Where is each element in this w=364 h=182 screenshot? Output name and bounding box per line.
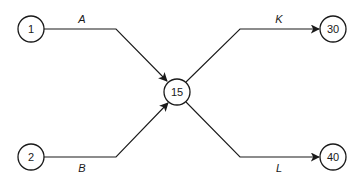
edge-label-l: L bbox=[276, 162, 282, 174]
node-15: 15 bbox=[164, 79, 190, 105]
node-1-label: 1 bbox=[28, 23, 34, 35]
network-diagram: A B K L 1 2 15 30 40 bbox=[0, 0, 364, 182]
node-1: 1 bbox=[18, 16, 44, 42]
node-30-label: 30 bbox=[327, 23, 339, 35]
node-40-label: 40 bbox=[327, 151, 339, 163]
edge-label-k: K bbox=[275, 13, 283, 25]
edge-label-b: B bbox=[78, 162, 85, 174]
node-2: 2 bbox=[18, 144, 44, 170]
arrow-a bbox=[44, 29, 167, 81]
edge-l: L bbox=[186, 102, 319, 174]
edge-b: B bbox=[44, 103, 168, 174]
edge-label-a: A bbox=[77, 13, 85, 25]
node-2-label: 2 bbox=[28, 151, 34, 163]
node-30: 30 bbox=[320, 16, 346, 42]
arrow-b bbox=[44, 103, 168, 157]
node-40: 40 bbox=[320, 144, 346, 170]
edge-k: K bbox=[186, 13, 319, 82]
edge-a: A bbox=[44, 13, 167, 81]
arrow-l bbox=[186, 102, 319, 157]
arrow-k bbox=[186, 29, 319, 82]
node-15-label: 15 bbox=[171, 86, 183, 98]
